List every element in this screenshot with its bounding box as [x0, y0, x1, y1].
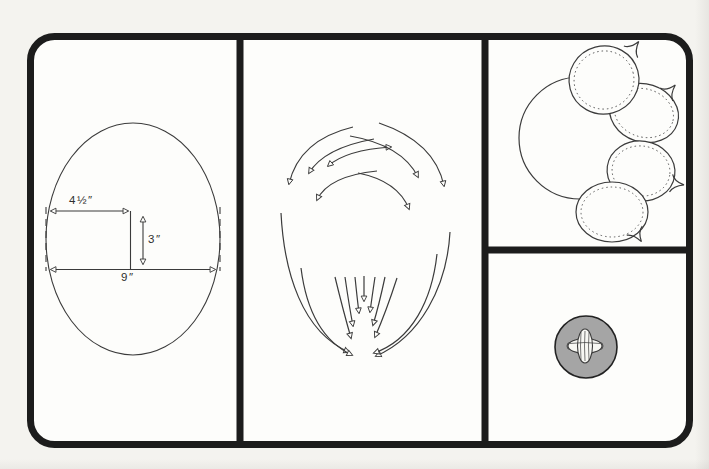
scan-paper-edge [695, 0, 709, 469]
scan-paper-bottom [0, 459, 709, 469]
figure-page: 4½″ 3″ 9″ [0, 0, 709, 469]
dimension-label-3: 3″ [148, 233, 161, 245]
dimension-label-4half: 4½″ [69, 194, 94, 206]
dimension-label-9: 9″ [121, 271, 134, 283]
panel-button [555, 316, 617, 378]
figure-line-art [0, 0, 709, 469]
